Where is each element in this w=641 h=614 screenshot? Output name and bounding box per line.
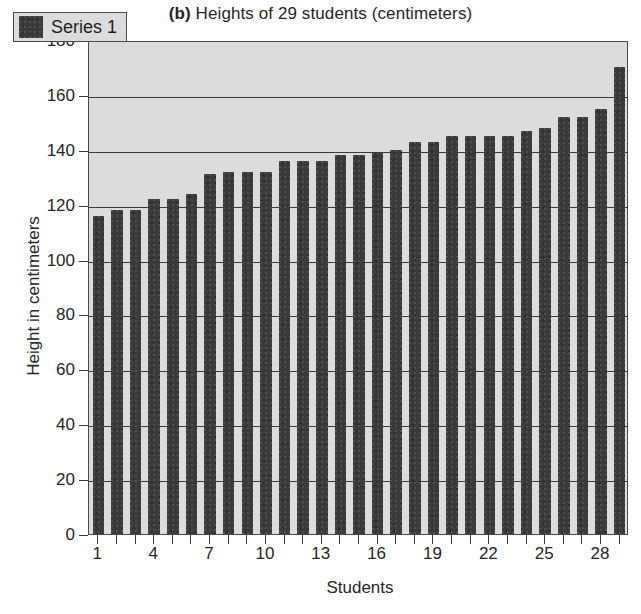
x-tick-mark-16 — [377, 535, 378, 544]
y-tick-mark-120 — [79, 206, 88, 207]
x-tick-mark-1 — [97, 535, 98, 544]
chart-title-prefix: (b) — [169, 4, 191, 23]
x-tick-mark-18 — [414, 535, 415, 544]
x-tick-mark-10 — [265, 535, 266, 544]
bar — [390, 150, 402, 534]
x-tick-mark-19 — [432, 535, 433, 544]
bar — [316, 161, 328, 534]
x-tick-mark-29 — [619, 535, 620, 544]
y-tick-label-120: 120 — [0, 197, 88, 215]
y-tick-label-20: 20 — [0, 471, 88, 489]
x-tick-mark-15 — [358, 535, 359, 544]
y-tick-mark-140 — [79, 151, 88, 152]
y-tick-label-40: 40 — [0, 416, 88, 434]
bar — [186, 194, 198, 534]
x-tick-label-7: 7 — [189, 544, 229, 564]
bar-series-series-1 — [89, 42, 627, 534]
y-tick-label-80: 80 — [0, 306, 88, 324]
x-tick-mark-9 — [246, 535, 247, 544]
x-tick-mark-28 — [600, 535, 601, 544]
x-tick-mark-11 — [284, 535, 285, 544]
y-tick-mark-40 — [79, 425, 88, 426]
bar — [279, 161, 291, 534]
y-tick-label-140: 140 — [0, 142, 88, 160]
x-axis-title: Students — [88, 578, 632, 598]
y-tick-label-160: 160 — [0, 87, 88, 105]
y-tick-mark-60 — [79, 370, 88, 371]
x-tick-mark-12 — [302, 535, 303, 544]
y-tick-label-60: 60 — [0, 361, 88, 379]
bar — [372, 153, 384, 534]
y-tick-mark-0 — [79, 535, 88, 536]
bar — [558, 117, 570, 534]
plot-area — [88, 41, 628, 535]
x-tick-label-16: 16 — [357, 544, 397, 564]
bar — [130, 210, 142, 534]
bar — [148, 199, 160, 534]
bar — [223, 172, 235, 534]
bar — [167, 199, 179, 534]
x-tick-mark-7 — [209, 535, 210, 544]
bar — [242, 172, 254, 534]
x-tick-mark-25 — [544, 535, 545, 544]
x-tick-mark-8 — [228, 535, 229, 544]
bar — [502, 136, 514, 534]
bar — [446, 136, 458, 534]
x-tick-label-19: 19 — [412, 544, 452, 564]
x-tick-mark-21 — [470, 535, 471, 544]
x-tick-mark-24 — [526, 535, 527, 544]
y-tick-mark-100 — [79, 261, 88, 262]
y-tick-label-100: 100 — [0, 252, 88, 270]
x-tick-label-22: 22 — [468, 544, 508, 564]
legend: Series 1 — [13, 12, 127, 42]
bar — [539, 128, 551, 534]
x-tick-mark-17 — [395, 535, 396, 544]
bar — [297, 161, 309, 534]
bar — [409, 142, 421, 534]
bar — [521, 131, 533, 534]
x-tick-label-4: 4 — [133, 544, 173, 564]
legend-swatch-series-1 — [19, 16, 43, 38]
bar — [577, 117, 589, 534]
y-tick-mark-20 — [79, 480, 88, 481]
bar — [260, 172, 272, 534]
y-tick-mark-80 — [79, 315, 88, 316]
bar — [465, 136, 477, 534]
x-tick-mark-26 — [563, 535, 564, 544]
bar — [111, 210, 123, 534]
x-tick-label-1: 1 — [77, 544, 117, 564]
x-tick-label-28: 28 — [580, 544, 620, 564]
bar — [353, 155, 365, 534]
x-tick-mark-2 — [116, 535, 117, 544]
y-tick-label-0: 0 — [0, 526, 88, 544]
x-tick-label-10: 10 — [245, 544, 285, 564]
bar — [484, 136, 496, 534]
legend-label-series-1: Series 1 — [51, 17, 117, 38]
x-tick-mark-20 — [451, 535, 452, 544]
x-tick-mark-13 — [321, 535, 322, 544]
chart-title-rest: Heights of 29 students (centimeters) — [191, 4, 473, 23]
bar — [614, 67, 626, 534]
x-tick-label-25: 25 — [524, 544, 564, 564]
x-tick-mark-5 — [172, 535, 173, 544]
x-tick-mark-14 — [339, 535, 340, 544]
x-tick-mark-22 — [488, 535, 489, 544]
bar — [428, 142, 440, 534]
x-tick-mark-6 — [190, 535, 191, 544]
bar — [595, 109, 607, 534]
x-tick-mark-27 — [581, 535, 582, 544]
x-tick-mark-23 — [507, 535, 508, 544]
bar — [204, 174, 216, 534]
bar — [93, 216, 105, 534]
y-tick-mark-160 — [79, 96, 88, 97]
bar — [335, 155, 347, 534]
x-tick-mark-4 — [153, 535, 154, 544]
x-tick-mark-3 — [135, 535, 136, 544]
x-tick-label-13: 13 — [301, 544, 341, 564]
